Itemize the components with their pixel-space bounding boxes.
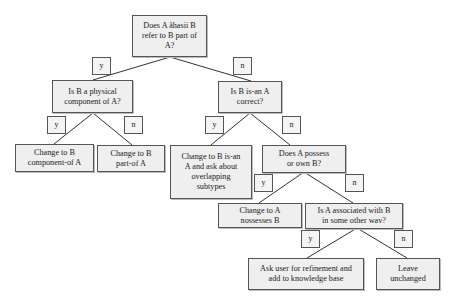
node-possess-question: Does A possess or own B? bbox=[262, 145, 346, 173]
edge-label-physical-yes: y bbox=[47, 116, 66, 134]
node-leave-unchanged: Leave unchanged bbox=[376, 258, 440, 290]
node-ask-user-refinement: Ask user for refinement and add to knowl… bbox=[248, 258, 364, 290]
edge-label-possess-yes: y bbox=[254, 174, 273, 192]
edge-label-associated-no: n bbox=[394, 230, 413, 248]
decision-tree-diagram: Does A ãhasii B refer to B part of A? Is… bbox=[0, 0, 456, 305]
node-root-question: Does A ãhasii B refer to B part of A? bbox=[132, 15, 207, 57]
edge-label-possess-no: n bbox=[345, 174, 364, 192]
node-change-isan-overlap: Change to B is-an A and ask about overla… bbox=[170, 145, 252, 199]
node-associated-question: Is A associated with B in some other wav… bbox=[305, 203, 403, 229]
edge-label-physical-no: n bbox=[124, 116, 143, 134]
edge-label-associated-yes: y bbox=[301, 230, 320, 248]
node-change-possesses: Change to A nossesses B bbox=[218, 203, 302, 228]
edge-label-root-no: n bbox=[233, 57, 252, 75]
node-change-part-of: Change to B part-of A bbox=[97, 145, 165, 172]
node-isan-correct-question: Is B is-an A correct? bbox=[218, 81, 282, 113]
node-change-component-of: Change to B component-of A bbox=[15, 144, 94, 172]
edge-label-isan-yes: y bbox=[205, 116, 224, 134]
edge-label-root-yes: y bbox=[92, 57, 111, 75]
edge-label-isan-no: n bbox=[282, 116, 301, 134]
node-physical-component-question: Is B a physical component of A? bbox=[52, 80, 133, 113]
